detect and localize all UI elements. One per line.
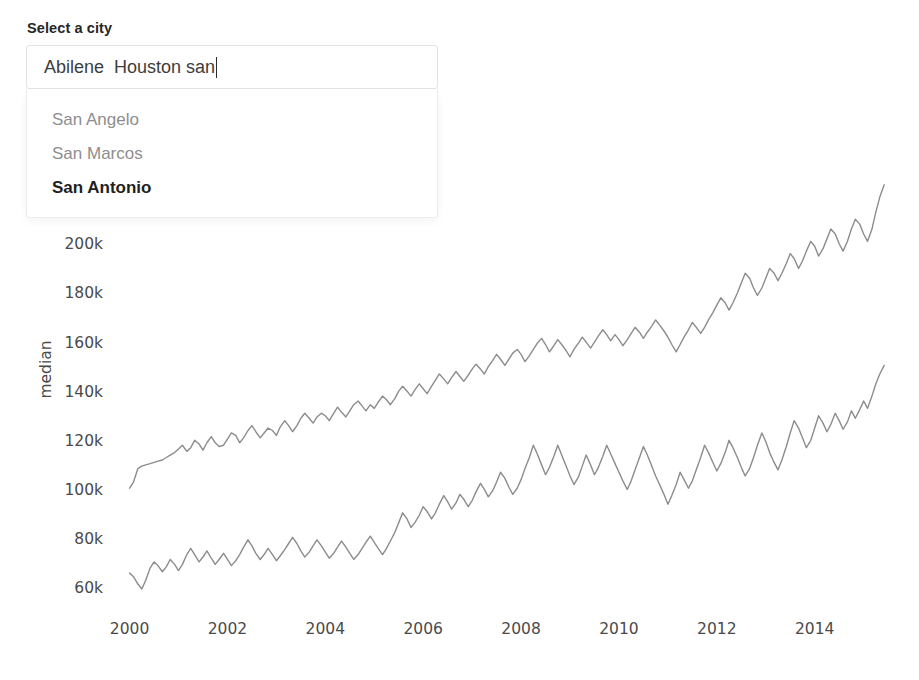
- x-tick-label: 2010: [599, 620, 638, 638]
- x-tick-label: 2006: [403, 620, 442, 638]
- series-line-houston: [130, 185, 885, 488]
- x-tick-label: 2008: [501, 620, 540, 638]
- city-selector-label: Select a city: [27, 20, 438, 36]
- x-tick-label: 2012: [697, 620, 736, 638]
- series-line-abilene: [130, 365, 885, 589]
- y-tick-label: 100k: [64, 481, 103, 499]
- city-selector-widget: Select a city Abilene Houston san San An…: [26, 20, 438, 218]
- city-option-san-antonio[interactable]: San Antonio: [27, 171, 437, 205]
- y-tick-label: 180k: [64, 284, 103, 302]
- x-tick-label: 2014: [795, 620, 834, 638]
- x-tick-label: 2000: [110, 620, 149, 638]
- city-option-san-marcos[interactable]: San Marcos: [27, 137, 437, 171]
- y-tick-label: 200k: [64, 235, 103, 253]
- city-search-input[interactable]: Abilene Houston san: [26, 45, 438, 89]
- city-search-input-value: Abilene Houston san: [44, 57, 215, 78]
- x-tick-label: 2002: [208, 620, 247, 638]
- y-tick-label: 80k: [74, 530, 103, 548]
- y-tick-label: 140k: [64, 383, 103, 401]
- city-option-san-angelo[interactable]: San Angelo: [27, 103, 437, 137]
- y-tick-label: 60k: [74, 579, 103, 597]
- y-axis-title: median: [37, 340, 55, 398]
- y-tick-label: 120k: [64, 432, 103, 450]
- x-tick-label: 2004: [306, 620, 345, 638]
- text-caret: [216, 57, 217, 78]
- y-tick-label: 160k: [64, 334, 103, 352]
- city-options-dropdown[interactable]: San Angelo San Marcos San Antonio: [26, 89, 438, 218]
